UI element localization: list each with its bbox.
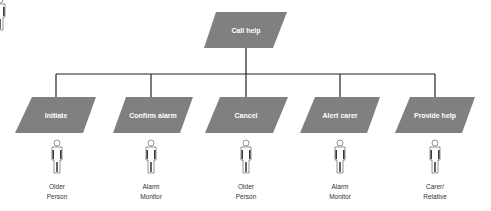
node-label-cancel: Cancel <box>235 112 258 119</box>
node-label-alert-carer: Alert carer <box>322 112 357 119</box>
person-icon-older-person-2 <box>241 140 251 173</box>
person-icon-alarm-monitor-2 <box>335 140 345 173</box>
actor-label-carer-relative: Carer/ Relative <box>423 182 446 202</box>
actor-label-line1: Older <box>236 182 257 192</box>
person-icon-older-person-1 <box>52 140 62 173</box>
node-label-confirm-alarm: Confirm alarm <box>129 112 176 119</box>
person-icon-carer-relative <box>430 140 440 173</box>
person-icon-alarm-monitor-1 <box>146 140 156 173</box>
node-label-call-help: Call help <box>231 27 260 34</box>
actor-label-line1: Older <box>47 182 68 192</box>
actor-label-line2: Monitor <box>140 192 162 202</box>
actor-label-line1: Carer/ <box>423 182 446 192</box>
actor-label-line2: Monitor <box>329 192 351 202</box>
actor-label-alarm-monitor-1: Alarm Monitor <box>140 182 162 202</box>
connectors <box>56 48 435 97</box>
actor-label-older-person-1: Older Person <box>47 182 68 202</box>
actor-label-line2: Person <box>47 192 68 202</box>
actor-label-line2: Relative <box>423 192 446 202</box>
actor-label-line2: Person <box>236 192 257 202</box>
actor-label-line1: Alarm <box>140 182 162 192</box>
actor-label-line1: Alarm <box>329 182 351 192</box>
person-icon <box>0 0 5 30</box>
actor-label-alarm-monitor-2: Alarm Monitor <box>329 182 351 202</box>
node-label-provide-help: Provide help <box>414 112 456 119</box>
node-label-initiate: Initiate <box>45 112 68 119</box>
actor-label-older-person-2: Older Person <box>236 182 257 202</box>
